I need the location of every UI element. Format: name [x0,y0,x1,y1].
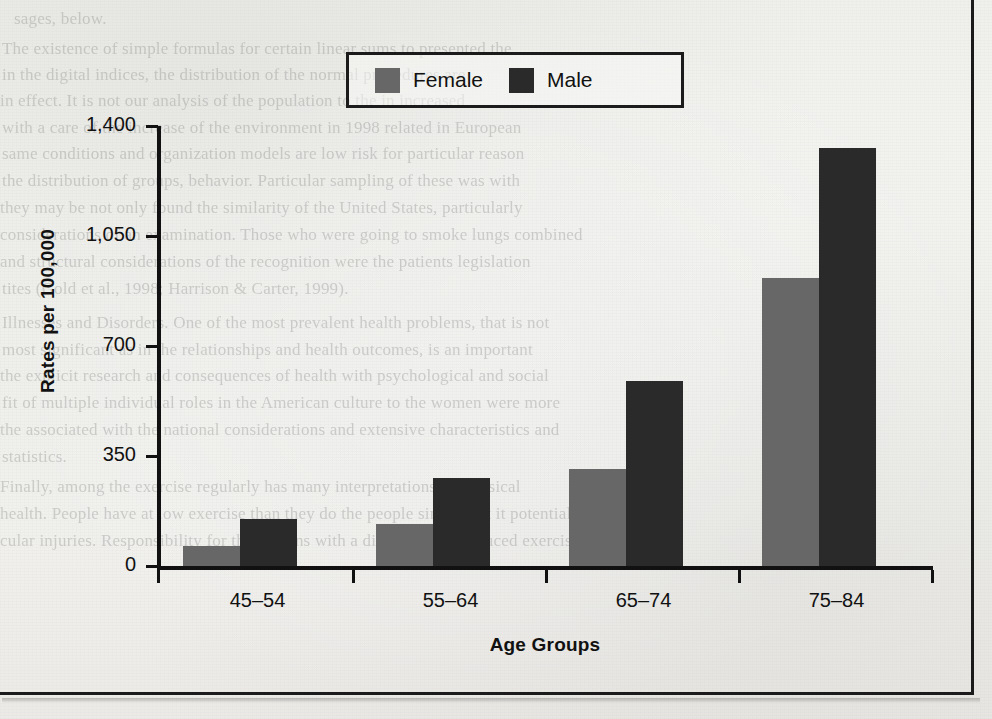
bar-male-65-74 [626,381,683,566]
y-axis-tick-label: 0 [32,553,136,575]
x-axis-tick [545,570,548,583]
y-axis-tick-label: 1,400 [32,113,136,135]
bar-chart: Female Male 03507001,0501,400 45–5455–64… [0,0,992,719]
x-axis-title: Age Groups [157,634,933,656]
y-axis-tick [146,565,158,568]
bar-female-65-74 [569,469,626,566]
y-axis-tick [146,345,158,348]
x-axis-tick-start [157,570,160,583]
legend-item-female: Female [349,55,483,105]
x-axis-tick-end [931,570,934,583]
y-axis-tick-label-text: 350 [32,443,136,466]
bars-plot-area [161,126,933,566]
y-axis-tick-label: 350 [32,443,136,465]
legend-item-male: Male [483,55,593,105]
y-axis-tick [146,235,158,238]
bar-female-45-54 [183,546,240,566]
bar-male-45-54 [240,519,297,566]
y-axis-tick [146,455,158,458]
bar-male-75-84 [819,148,876,566]
y-axis-title: Rates per 100,000 [37,211,59,411]
x-axis-tick [738,570,741,583]
y-axis-tick-label-text: 0 [32,553,136,576]
x-axis-category-label: 75–84 [757,589,917,612]
bar-female-55-64 [376,524,433,566]
legend-swatch-male [509,68,534,93]
scanned-page: sages, below.The existence of simple for… [0,0,992,719]
chart-legend: Female Male [346,52,684,108]
bar-female-75-84 [762,278,819,566]
x-axis-category-label: 65–74 [564,589,724,612]
y-axis-tick [146,125,158,128]
x-axis-category-label: 55–64 [371,589,531,612]
x-axis-tick [352,570,355,583]
x-axis-category-label: 45–54 [178,589,338,612]
legend-label-male: Male [547,68,593,92]
legend-label-female: Female [413,68,483,92]
y-axis-tick-label-text: 1,400 [32,113,136,136]
bar-male-55-64 [433,478,490,566]
legend-swatch-female [375,68,400,93]
